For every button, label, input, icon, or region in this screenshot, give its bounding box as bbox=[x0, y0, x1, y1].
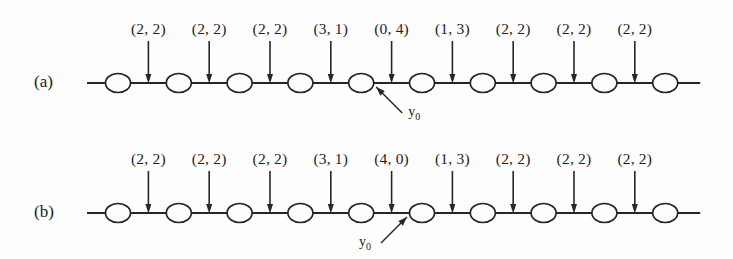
edge-label: (2, 2) bbox=[131, 20, 166, 38]
panel-a: (a) (2, 2)(2, 2)(2, 2)(3, 1)(0, 4)(1, 3)… bbox=[0, 4, 733, 124]
edge-label: (2, 2) bbox=[253, 20, 288, 38]
graph-node bbox=[349, 204, 374, 223]
edge-label: (2, 2) bbox=[496, 20, 531, 38]
graph-node bbox=[653, 74, 678, 93]
edge-label: (2, 2) bbox=[192, 20, 227, 38]
panel-b: (b) (2, 2)(2, 2)(2, 2)(3, 1)(4, 0)(1, 3)… bbox=[0, 134, 733, 254]
graph-node bbox=[106, 74, 131, 93]
graph-node bbox=[531, 204, 556, 223]
graph-node bbox=[653, 204, 678, 223]
graph-node bbox=[288, 204, 313, 223]
graph-node bbox=[349, 74, 374, 93]
edge-label: (3, 1) bbox=[313, 150, 348, 168]
graph-node bbox=[227, 204, 252, 223]
y0-label-base: y bbox=[359, 234, 366, 249]
graph-node bbox=[531, 74, 556, 93]
graph-node bbox=[106, 204, 131, 223]
graph-node bbox=[592, 204, 617, 223]
y0-label-subscript: 0 bbox=[415, 111, 420, 122]
edge-label: (1, 3) bbox=[435, 150, 470, 168]
edge-label: (2, 2) bbox=[557, 150, 592, 168]
edge-label: (2, 2) bbox=[192, 150, 227, 168]
edge-label: (2, 2) bbox=[617, 20, 652, 38]
edge-label: (2, 2) bbox=[617, 150, 652, 168]
graph-node bbox=[592, 74, 617, 93]
graph-node bbox=[288, 74, 313, 93]
edge-label: (4, 0) bbox=[374, 150, 409, 168]
graph-node bbox=[470, 74, 495, 93]
graph-node bbox=[166, 74, 191, 93]
edge-label: (1, 3) bbox=[435, 20, 470, 38]
figure-container: (a) (2, 2)(2, 2)(2, 2)(3, 1)(0, 4)(1, 3)… bbox=[0, 0, 733, 259]
y0-label: y0 bbox=[359, 234, 371, 252]
edge-label: (2, 2) bbox=[253, 150, 288, 168]
graph-node bbox=[410, 204, 435, 223]
edge-label: (0, 4) bbox=[374, 20, 409, 38]
graph-node bbox=[410, 74, 435, 93]
edge-label: (2, 2) bbox=[131, 150, 166, 168]
graph-node bbox=[166, 204, 191, 223]
y0-label: y0 bbox=[408, 104, 420, 122]
graph-node bbox=[470, 204, 495, 223]
edge-label: (3, 1) bbox=[313, 20, 348, 38]
edge-label: (2, 2) bbox=[557, 20, 592, 38]
graph-node bbox=[227, 74, 252, 93]
edge-label: (2, 2) bbox=[496, 150, 531, 168]
y0-label-subscript: 0 bbox=[366, 241, 371, 252]
